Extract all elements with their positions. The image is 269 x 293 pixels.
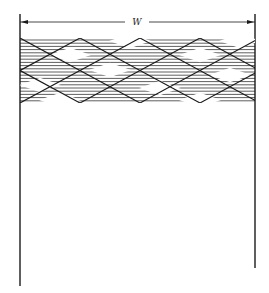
arrowhead-right-icon [247, 20, 254, 24]
arrowhead-left-icon [21, 20, 28, 24]
channel-wave-diagram: W [0, 0, 269, 293]
width-label: W [132, 17, 142, 27]
